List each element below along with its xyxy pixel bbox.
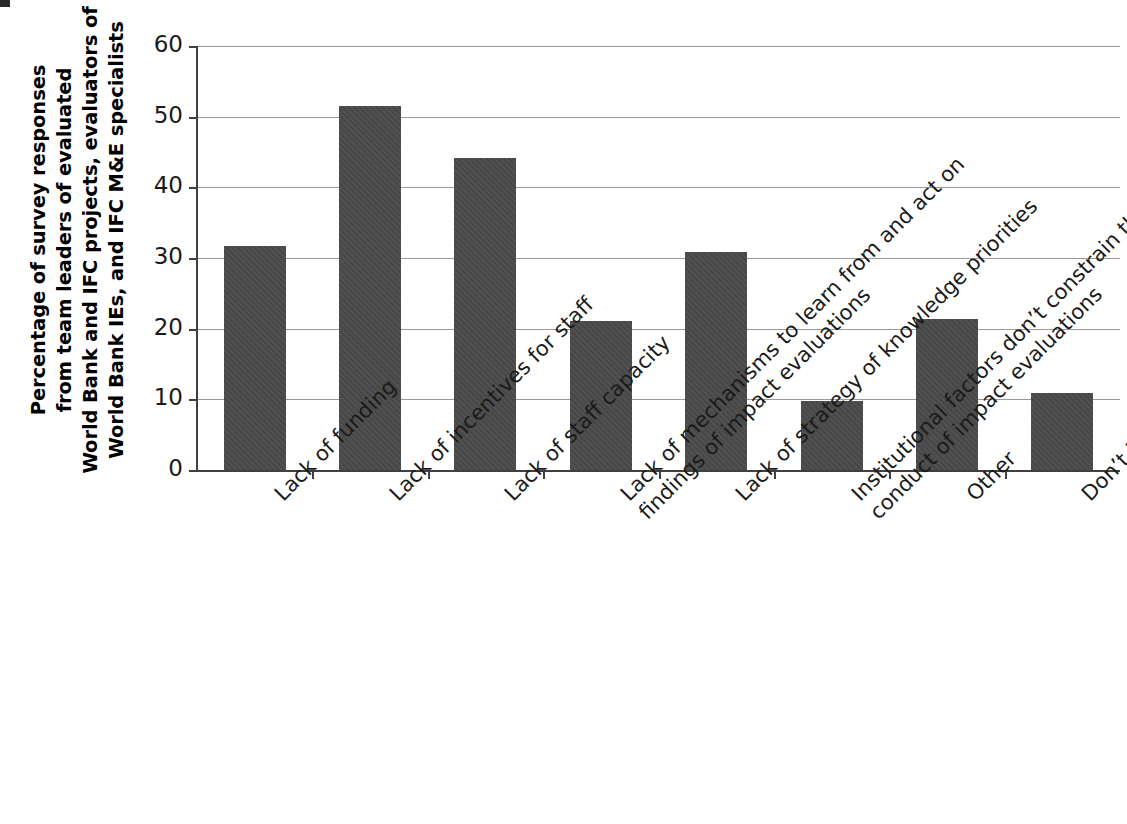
bar[interactable] — [1031, 393, 1093, 470]
y-axis-tick — [189, 117, 197, 119]
y-axis-tick — [189, 187, 197, 189]
y-axis-tick — [189, 329, 197, 331]
x-axis-tick-label: Don’t know — [1076, 488, 1094, 506]
bar[interactable] — [224, 246, 286, 470]
y-axis-title-line-1: Percentage of survey responses — [26, 6, 52, 473]
y-axis-tick — [189, 258, 197, 260]
y-axis-tick-label: 30 — [139, 243, 183, 269]
x-axis-tick-label-line: Lack of staff capacity — [499, 488, 517, 506]
x-axis-tick-label-line: Institutional factors don’t constrain th… — [846, 488, 864, 506]
x-axis-tick-label: Lack of funding — [269, 488, 287, 506]
y-axis-tick-label: 10 — [139, 384, 183, 410]
y-axis-tick — [189, 470, 197, 472]
x-axis-tick-label-line: Lack of mechanisms to learn from and act… — [615, 488, 633, 506]
x-axis-tick-label: Lack of mechanisms to learn from and act… — [615, 488, 652, 525]
x-axis-tick-label: Institutional factors don’t constrain th… — [846, 488, 883, 525]
x-axis-tick-label-line: findings of impact evaluations — [633, 506, 651, 524]
y-axis-tick-label: 0 — [139, 455, 183, 481]
y-axis-title: Percentage of survey responses from team… — [0, 0, 155, 480]
x-axis-tick-label-line: Lack of incentives for staff — [384, 488, 402, 506]
y-axis-tick-label: 60 — [139, 31, 183, 57]
x-axis-tick-label: Lack of strategy of knowledge priorities — [730, 488, 748, 506]
x-axis-tick-label-line: Lack of funding — [269, 488, 287, 506]
x-axis-tick-label: Lack of staff capacity — [499, 488, 517, 506]
x-axis-tick-label: Lack of incentives for staff — [384, 488, 402, 506]
x-axis-tick-label-line: Other — [961, 488, 979, 506]
x-axis-tick-label: Other — [961, 488, 979, 506]
chart-figure: Percentage of survey responses from team… — [0, 0, 1127, 824]
y-axis-tick-label: 40 — [139, 172, 183, 198]
y-axis-tick — [189, 46, 197, 48]
y-axis-tick — [189, 399, 197, 401]
bar-slot — [197, 46, 312, 470]
x-axis-tick-label-line: Lack of strategy of knowledge priorities — [730, 488, 748, 506]
y-axis-title-line-4: World Bank IEs, and IFC M&E specialists — [104, 6, 130, 473]
x-axis-tick-label-line: conduct of impact evaluations — [864, 506, 882, 524]
y-axis-tick-label: 50 — [139, 102, 183, 128]
y-axis-title-line-2: from team leaders of evaluated — [52, 6, 78, 473]
y-axis-title-line-3: World Bank and IFC projects, evaluators … — [78, 6, 104, 473]
y-axis-tick-label: 20 — [139, 314, 183, 340]
x-axis-tick-label-line: Don’t know — [1076, 488, 1094, 506]
